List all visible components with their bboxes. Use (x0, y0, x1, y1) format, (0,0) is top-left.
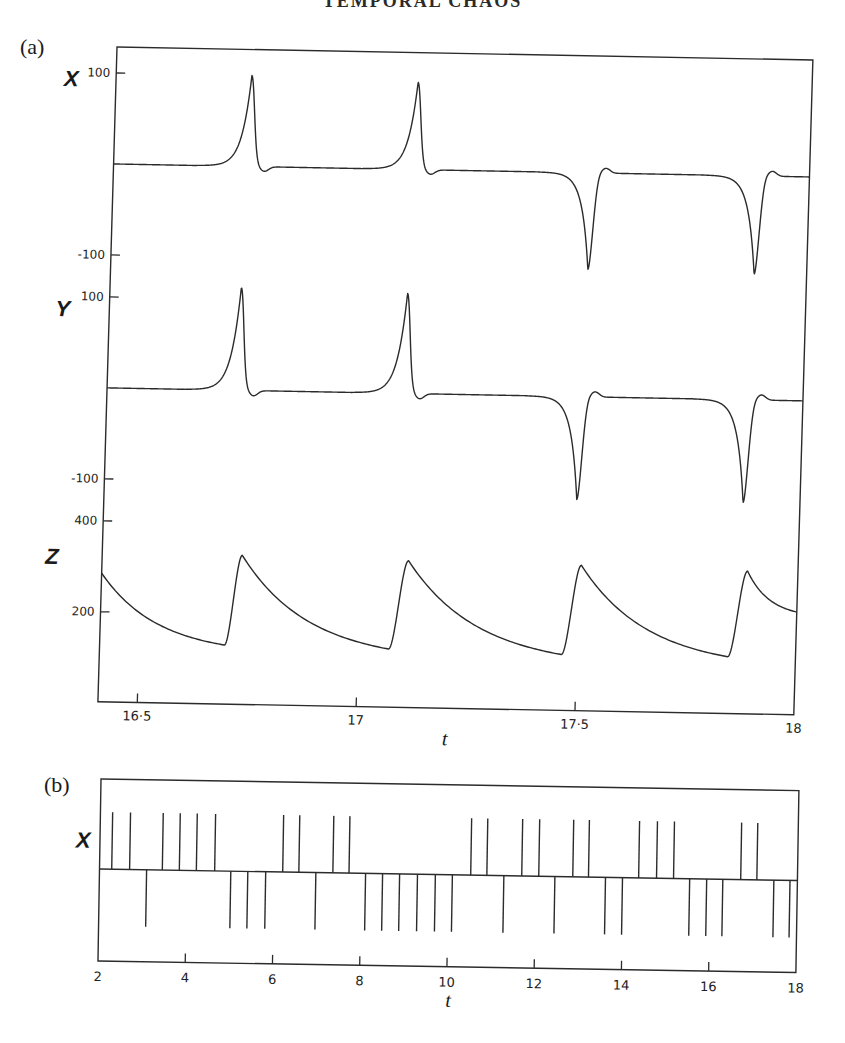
x-tick-label: 14 (613, 978, 630, 993)
spike-down (315, 873, 316, 930)
y-tick-label: 400 (74, 513, 97, 527)
x-tick-label: 8 (355, 973, 364, 988)
spike-down (417, 874, 418, 931)
spike-down (434, 875, 435, 932)
panel-a-chart: 100-100100-100400200 16·51717·518 X Y Z … (39, 46, 821, 756)
spike-up (283, 815, 284, 872)
panel-b-x-variable-label: X (74, 828, 92, 853)
panel-a-x-axis-label: t (442, 727, 449, 749)
panel-a-x-axis: 16·51717·518 (122, 693, 802, 736)
panel-b-x-axis-label: t (445, 989, 451, 1011)
y-tick-label: 100 (87, 65, 110, 79)
spike-up (471, 818, 472, 875)
panel-b-baseline (100, 869, 798, 881)
y-tick-label: -100 (78, 247, 106, 262)
spike-up (573, 820, 574, 877)
spike-up (215, 814, 216, 871)
spike-down (265, 872, 266, 929)
spike-down (247, 871, 248, 928)
spike-down (382, 874, 383, 931)
spike-down (554, 877, 555, 934)
spike-down (789, 880, 790, 937)
y-tick-label: 200 (71, 604, 94, 618)
spike-up (657, 821, 658, 878)
x-tick-label: 16·5 (122, 708, 151, 724)
spike-down (722, 879, 723, 936)
spike-down (365, 873, 366, 930)
spike-up (179, 813, 180, 870)
panel-b-chart: 24681012141618 X t (71, 779, 807, 1017)
spike-down (773, 880, 774, 937)
x-tick-label: 16 (700, 979, 717, 994)
x-tick-label: 12 (526, 976, 543, 991)
spike-up (522, 819, 523, 876)
spike-down (689, 879, 690, 936)
spike-up (333, 816, 334, 873)
spike-up (588, 820, 589, 877)
spike-up (299, 815, 300, 872)
spike-up (539, 819, 540, 876)
spike-down (605, 877, 606, 934)
spike-down (230, 871, 231, 928)
x-tick-label: 2 (93, 969, 102, 984)
x-tick-label: 17 (347, 712, 364, 727)
y-timeseries-line (104, 286, 806, 504)
spike-up (130, 812, 131, 869)
spike-up (349, 816, 350, 873)
spike-down (399, 874, 400, 931)
panel-a-frame (98, 47, 813, 715)
spike-up (639, 821, 640, 878)
spike-up (196, 814, 197, 871)
x-variable-label: X (62, 66, 81, 91)
x-timeseries-line (111, 73, 812, 275)
spike-down (146, 870, 147, 927)
y-tick-label: 100 (81, 289, 104, 303)
spike-down (451, 875, 452, 932)
x-tick-label: 4 (181, 970, 190, 985)
x-tick-label: 17·5 (560, 716, 589, 732)
z-timeseries-line (100, 553, 799, 659)
spike-up (757, 823, 758, 880)
y-tick-label: -100 (71, 471, 99, 486)
panel-a-y-axis: 100-100100-100400200 (67, 65, 125, 619)
x-tick-label: 18 (785, 721, 802, 736)
spike-down (622, 878, 623, 935)
panel-b-frame (98, 779, 799, 973)
spike-up (162, 813, 163, 870)
spike-up (487, 818, 488, 875)
spike-down (706, 879, 707, 936)
spike-up (112, 812, 113, 869)
x-tick-label: 10 (438, 975, 455, 990)
x-tick-label: 18 (787, 980, 804, 995)
y-variable-label: Y (55, 296, 73, 321)
figure-canvas: 100-100100-100400200 16·51717·518 X Y Z … (0, 0, 845, 1043)
spike-down (503, 876, 504, 933)
spike-up (674, 822, 675, 879)
spike-up (741, 823, 742, 880)
x-tick-label: 6 (268, 972, 277, 987)
z-variable-label: Z (44, 544, 61, 569)
